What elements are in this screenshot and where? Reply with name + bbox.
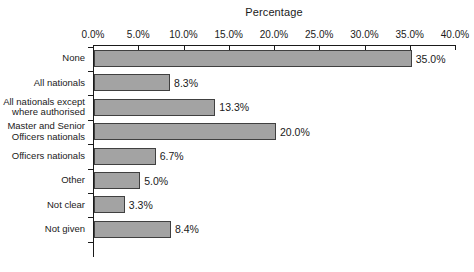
bar-value-label: 20.0% (280, 126, 310, 138)
bar (94, 99, 215, 116)
chart-axis-title: Percentage (93, 6, 455, 18)
category-label: Other (0, 175, 85, 186)
bar (94, 74, 170, 91)
bar (94, 221, 171, 238)
bar (94, 196, 125, 213)
y-tick-end (88, 242, 93, 243)
category-label: Officers nationals (0, 151, 85, 162)
y-tick-2 (88, 95, 93, 96)
y-tick-5 (88, 169, 93, 170)
category-label: All nationals (0, 78, 85, 89)
bar (94, 148, 156, 165)
category-label: Master and Senior Officers nationals (0, 121, 85, 142)
y-tick-7 (88, 217, 93, 218)
bar-value-label: 6.7% (160, 150, 184, 162)
y-tick-3 (88, 120, 93, 121)
bar (94, 50, 412, 67)
x-tick-8 (455, 45, 456, 50)
bar-value-label: 8.4% (175, 223, 199, 235)
bar-value-label: 5.0% (144, 175, 168, 187)
category-label: Not given (0, 224, 85, 235)
category-label: Not clear (0, 200, 85, 211)
y-tick-0 (88, 47, 93, 48)
bar-value-label: 3.3% (129, 199, 153, 211)
y-tick-1 (88, 71, 93, 72)
bar (94, 172, 140, 189)
bar-value-label: 8.3% (174, 77, 198, 89)
x-tick-label-8: 40.0% (425, 29, 474, 40)
y-tick-6 (88, 193, 93, 194)
bar (94, 123, 276, 140)
bar-value-label: 13.3% (219, 101, 249, 113)
bar-value-label: 35.0% (416, 53, 446, 65)
category-label: All nationals except where authorised (0, 97, 85, 118)
category-label: None (0, 53, 85, 64)
y-tick-4 (88, 144, 93, 145)
